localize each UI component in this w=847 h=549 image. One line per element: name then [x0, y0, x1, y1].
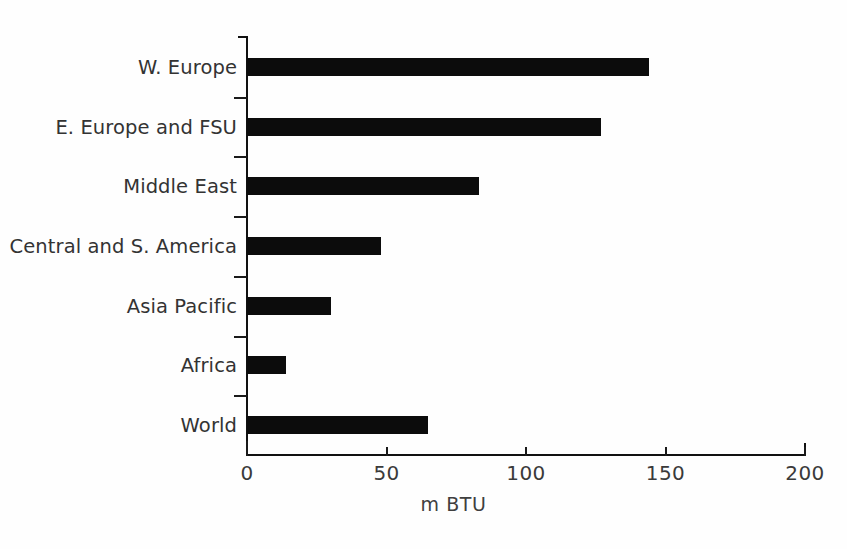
bar: [247, 297, 331, 315]
category-label: E. Europe and FSU: [0, 115, 237, 138]
bar: [247, 356, 286, 374]
category-label: Asia Pacific: [0, 294, 237, 317]
x-axis-tick-label: 150: [646, 461, 685, 485]
x-axis-tick: [525, 447, 527, 456]
bar: [247, 416, 428, 434]
y-axis-top-cap: [238, 36, 248, 38]
bar: [247, 237, 381, 255]
x-axis-title: m BTU: [0, 493, 847, 515]
bar-chart: W. EuropeE. Europe and FSUMiddle EastCen…: [0, 0, 847, 549]
x-axis-tick-label: 200: [785, 461, 824, 485]
x-axis-tick: [804, 447, 806, 456]
category-label: World: [0, 414, 237, 437]
y-axis-tick: [234, 156, 247, 158]
x-axis-tick-label: 0: [240, 461, 253, 485]
bar: [247, 177, 479, 195]
y-axis-tick: [234, 276, 247, 278]
bar: [247, 58, 649, 76]
category-label: Africa: [0, 354, 237, 377]
category-label: Middle East: [0, 175, 237, 198]
x-axis-tick-label: 50: [373, 461, 399, 485]
category-label: Central and S. America: [0, 235, 237, 258]
y-axis-tick: [234, 97, 247, 99]
bar: [247, 118, 601, 136]
x-axis-tick-label: 100: [506, 461, 545, 485]
x-axis-title-text: m BTU: [420, 493, 486, 515]
x-axis-tick: [246, 441, 248, 456]
category-label: W. Europe: [0, 55, 237, 78]
y-axis-tick: [234, 395, 247, 397]
y-axis-tick: [234, 216, 247, 218]
x-axis-tick: [386, 447, 388, 456]
x-axis-tick: [665, 447, 667, 456]
y-axis-tick: [234, 336, 247, 338]
